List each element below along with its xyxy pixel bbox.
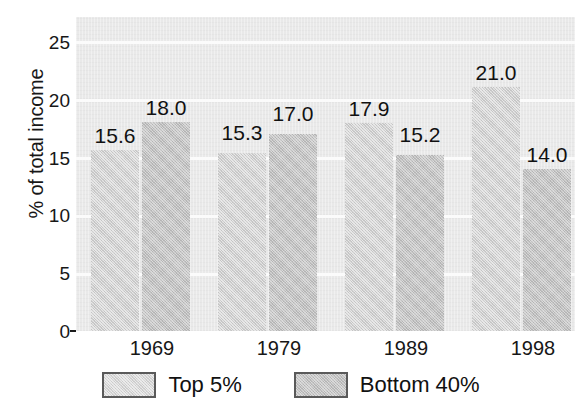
x-tick-label-1998: 1998 <box>483 338 582 358</box>
x-tick-label-1989: 1989 <box>356 338 456 358</box>
bar-value-1989-top5: 17.9 <box>332 98 406 119</box>
bar-1969-top5 <box>91 150 139 331</box>
bar-1969-bottom40 <box>142 122 190 331</box>
y-tick-label-20: 20 <box>38 91 70 110</box>
y-axis-line <box>70 17 72 333</box>
legend-item-bottom40: Bottom 40% <box>294 372 480 398</box>
bar-value-1998-top5: 21.0 <box>459 62 533 83</box>
y-tick-label-15: 15 <box>38 149 70 168</box>
legend-label-top5: Top 5% <box>168 374 241 396</box>
x-axis-origin-tick <box>70 330 76 332</box>
y-tick-label-10: 10 <box>38 206 70 225</box>
legend-swatch-top5 <box>102 372 156 398</box>
plot-area: 15.6 18.0 15.3 17.0 17.9 15.2 21.0 14.0 <box>76 17 575 331</box>
bar-1989-top5 <box>345 123 393 331</box>
legend-label-bottom40: Bottom 40% <box>360 374 480 396</box>
legend-swatch-bottom40 <box>294 372 348 398</box>
bar-value-1979-top5: 15.3 <box>205 122 279 143</box>
bar-1979-bottom40 <box>269 134 317 331</box>
bar-chart-figure: % of total income 25 20 15 10 5 0 15.6 1… <box>0 0 582 415</box>
bar-value-1969-top5: 15.6 <box>78 125 152 146</box>
gridline-25 <box>76 41 575 44</box>
legend-item-top5: Top 5% <box>102 372 241 398</box>
y-tick-label-0: 0 <box>38 322 70 341</box>
bar-1998-bottom40 <box>523 169 571 331</box>
bar-value-1989-bottom40: 15.2 <box>383 124 457 145</box>
bar-1998-top5 <box>472 87 520 331</box>
y-tick-label-5: 5 <box>38 264 70 283</box>
x-tick-label-1979: 1979 <box>229 338 329 358</box>
bar-value-1969-bottom40: 18.0 <box>129 97 203 118</box>
chart-legend: Top 5% Bottom 40% <box>0 368 582 402</box>
y-axis-tick-labels: 25 20 15 10 5 0 <box>34 0 70 415</box>
bar-1979-top5 <box>218 153 266 331</box>
y-tick-label-25: 25 <box>38 33 70 52</box>
x-tick-label-1969: 1969 <box>102 338 202 358</box>
bar-value-1979-bottom40: 17.0 <box>256 103 330 124</box>
bar-value-1998-bottom40: 14.0 <box>510 144 582 165</box>
bar-1989-bottom40 <box>396 155 444 331</box>
